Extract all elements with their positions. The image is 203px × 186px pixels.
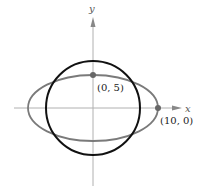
x-axis-label: x xyxy=(185,103,191,114)
y-axis-arrow-icon xyxy=(91,17,96,27)
point-10-0 xyxy=(155,105,161,111)
diagram-canvas: x y (0, 5) (10, 0) xyxy=(0,0,203,186)
point-label-0-5: (0, 5) xyxy=(97,82,124,93)
x-axis-arrow-icon xyxy=(172,106,182,111)
point-label-10-0: (10, 0) xyxy=(160,115,193,126)
point-0-5 xyxy=(90,72,96,78)
y-axis-label: y xyxy=(88,3,95,14)
